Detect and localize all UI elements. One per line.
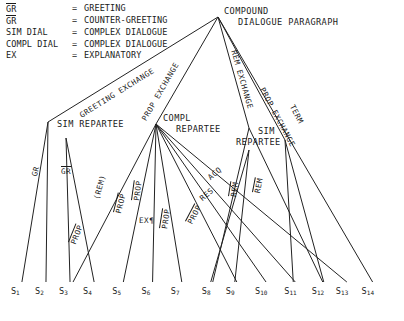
leaf-s14: S14 xyxy=(362,286,374,296)
node-compl-repartee-line1: COMPL xyxy=(163,113,191,125)
leaf-sub: 8 xyxy=(207,289,211,296)
leaf-sub: 7 xyxy=(176,289,180,296)
leaf-s10: S10 xyxy=(255,286,267,296)
leaf-sub: 9 xyxy=(231,289,235,296)
legend-equals: = xyxy=(72,15,84,27)
legend-row: EX = EXPLANATORY xyxy=(6,50,167,61)
node-sim-repartee-right-line2: REPARTEE xyxy=(236,137,281,149)
leaf-s9: S9 xyxy=(226,286,235,296)
leaf-sub: 11 xyxy=(289,289,296,296)
edge-label-rem-1: REM xyxy=(228,181,241,198)
leaf-sub: 3 xyxy=(64,289,68,296)
leaf-sub: 1 xyxy=(16,289,20,296)
node-sim-repartee-right-line1: SIM xyxy=(258,126,275,138)
leaf-s12: S12 xyxy=(312,286,324,296)
legend-symbol: GR xyxy=(6,15,72,27)
diagram-canvas: GR = GREETING GR = COUNTER-GREETING SIM … xyxy=(0,0,404,321)
edge-propexchange-right-s12 xyxy=(285,140,293,282)
leaf-s6: S6 xyxy=(142,286,151,296)
edge-simrepartee-left-s2 xyxy=(46,122,48,282)
legend-expansion: COMPLEX DIALOGUE xyxy=(84,27,167,38)
leaf-sub: 6 xyxy=(147,289,151,296)
leaf-sub: 5 xyxy=(118,289,122,296)
legend-symbol-text: GR xyxy=(6,3,16,14)
edge-simrepartee-left-s3 xyxy=(66,138,70,282)
leaf-s5: S5 xyxy=(112,286,121,296)
leaf-sub: 13 xyxy=(341,289,348,296)
leaf-s4: S4 xyxy=(83,286,92,296)
leaf-sub: 4 xyxy=(88,289,92,296)
leaf-sub: 10 xyxy=(260,289,267,296)
edge-label-gr-counter: GR xyxy=(61,166,71,177)
edge-complrepartee-s8 xyxy=(156,124,237,282)
legend-symbol: GR xyxy=(6,3,72,15)
node-sim-repartee-left: SIM REPARTEE xyxy=(57,119,124,130)
legend-row: COMPL DIAL = COMPLEX DIALOGUE xyxy=(6,39,167,50)
legend-equals: = xyxy=(72,3,84,15)
legend-row: GR = GREETING xyxy=(6,3,167,15)
edge-label-ex-pilcrow: EX¶ xyxy=(139,216,154,225)
leaf-s11: S11 xyxy=(284,286,296,296)
legend-expansion: GREETING xyxy=(84,3,167,15)
node-root-line1: COMPOUND xyxy=(224,6,269,17)
edge-simrepartee-left-s1 xyxy=(22,122,48,282)
legend-symbol: EX xyxy=(6,50,72,61)
leaf-s8: S8 xyxy=(202,286,211,296)
legend-equals: = xyxy=(72,39,84,50)
edge-root-term xyxy=(218,17,373,282)
edge-complrepartee-s7 xyxy=(156,124,182,282)
legend-expansion: COUNTER-GREETING xyxy=(84,15,167,27)
legend-equals: = xyxy=(72,27,84,38)
legend-table: GR = GREETING GR = COUNTER-GREETING SIM … xyxy=(6,3,167,61)
legend-symbol: SIM DIAL xyxy=(6,27,72,38)
node-compl-repartee-line2: REPARTEE xyxy=(176,124,221,136)
leaf-sub: 14 xyxy=(367,289,374,296)
edge-complrepartee-s6 xyxy=(153,124,156,282)
legend: GR = GREETING GR = COUNTER-GREETING SIM … xyxy=(6,3,167,61)
legend-expansion: EXPLANATORY xyxy=(84,50,167,61)
leaf-s3: S3 xyxy=(59,286,68,296)
leaf-sub: 2 xyxy=(40,289,44,296)
legend-symbol-text: GR xyxy=(6,15,16,26)
legend-expansion: COMPLEX DIALOGUE xyxy=(84,39,167,50)
legend-row: SIM DIAL = COMPLEX DIALOGUE xyxy=(6,27,167,38)
leaf-s1: S1 xyxy=(11,286,20,296)
leaf-s7: S7 xyxy=(171,286,180,296)
leaf-s2: S2 xyxy=(35,286,44,296)
edge-simrepartee-left-s4 xyxy=(66,138,94,282)
leaf-sub: 12 xyxy=(317,289,324,296)
node-root-line2: DIALOGUE PARAGRAPH xyxy=(238,17,338,28)
legend-row: GR = COUNTER-GREETING xyxy=(6,15,167,27)
leaf-s13: S13 xyxy=(336,286,348,296)
edge-complrepartee-s5 xyxy=(123,124,156,282)
legend-symbol: COMPL DIAL xyxy=(6,39,72,50)
edge-label-gr-counter-text: GR xyxy=(61,166,71,177)
legend-equals: = xyxy=(72,50,84,61)
edge-label-rem-1-text: REM xyxy=(228,181,241,198)
edge-propexchange-right-s13 xyxy=(285,140,324,282)
